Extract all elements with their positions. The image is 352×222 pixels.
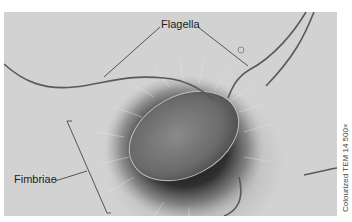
- fimbriae-label: Fimbriae: [14, 174, 57, 185]
- fimbriae-bracket: [67, 121, 111, 213]
- flagella-leader-left: [104, 27, 160, 77]
- fimbriae-leader: [55, 171, 87, 181]
- micrograph-figure: Flagella Fimbriae Colourized TEM 14 500×: [0, 0, 352, 222]
- flagella-leader-right: [198, 27, 248, 66]
- annotation-lines: [0, 0, 352, 222]
- magnification-caption: Colourized TEM 14 500×: [341, 123, 350, 212]
- flagella-label: Flagella: [161, 19, 200, 30]
